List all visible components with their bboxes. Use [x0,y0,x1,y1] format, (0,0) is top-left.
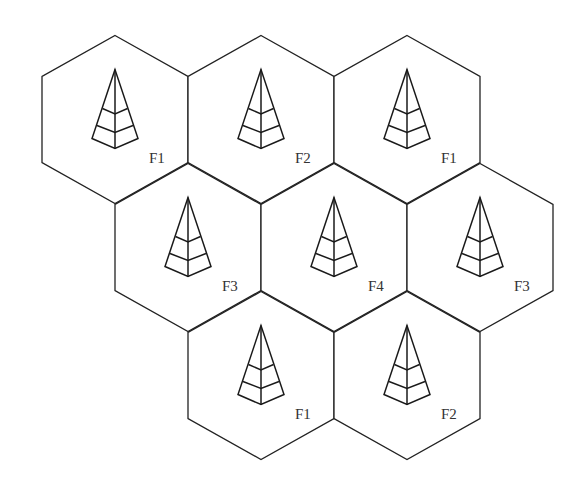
frequency-label: F4 [368,278,384,294]
frequency-label: F3 [222,278,238,294]
frequency-label: F2 [441,406,457,422]
frequency-label: F3 [514,278,530,294]
cellular-hex-diagram: F1F2F1F3F4F3F1F2 [0,0,588,487]
frequency-label: F1 [441,150,457,166]
frequency-label: F2 [295,150,311,166]
cells-layer: F1F2F1F3F4F3F1F2 [42,36,553,460]
frequency-label: F1 [149,150,165,166]
frequency-label: F1 [295,406,311,422]
